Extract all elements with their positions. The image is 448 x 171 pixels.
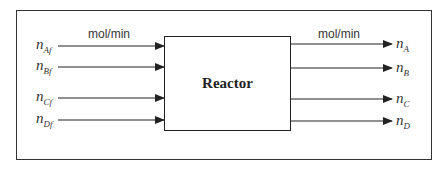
input-label-A: nAf [36,36,52,55]
input-label-B: nBf [36,57,52,76]
input-label-D: nDf [36,110,53,129]
output-arrows [291,44,392,121]
input-label-C: nCf [36,88,52,107]
output-label-D: nD [396,112,410,131]
output-label-B: nB [396,59,409,78]
flow-arrows [0,0,448,171]
output-label-A: nA [396,35,409,54]
input-arrows [58,46,164,120]
output-label-C: nC [396,90,410,109]
